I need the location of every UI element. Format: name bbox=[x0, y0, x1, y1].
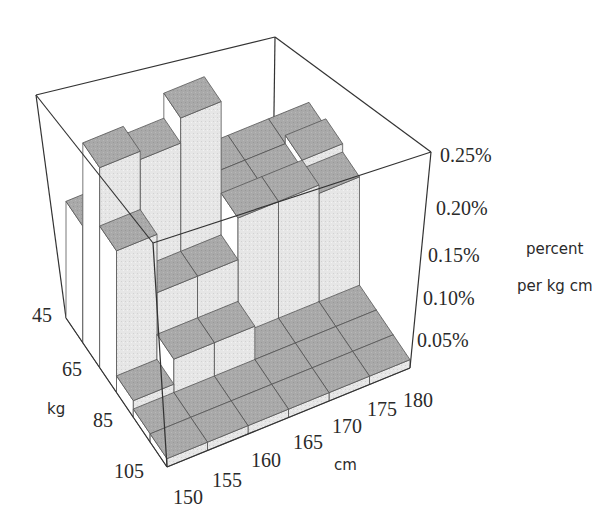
z-tick-010: 0.10% bbox=[423, 287, 475, 309]
x-axis-label: cm bbox=[334, 456, 357, 474]
y-tick-45: 45 bbox=[32, 304, 52, 326]
x-tick-155: 155 bbox=[212, 469, 242, 491]
bars-group bbox=[66, 77, 410, 467]
y-axis-label: kg bbox=[47, 400, 65, 418]
z-tick-015: 0.15% bbox=[428, 244, 480, 266]
z-tick-020: 0.20% bbox=[436, 197, 488, 219]
x-tick-150: 150 bbox=[173, 486, 203, 508]
x-tick-165: 165 bbox=[293, 431, 323, 453]
y-tick-65: 65 bbox=[62, 358, 82, 380]
x-tick-180: 180 bbox=[403, 389, 433, 411]
z-axis-label-line1: percent bbox=[526, 240, 584, 258]
y-tick-105: 105 bbox=[114, 460, 144, 482]
x-tick-160: 160 bbox=[251, 449, 281, 471]
bar-side-face bbox=[100, 226, 117, 392]
x-tick-170: 170 bbox=[332, 415, 362, 437]
z-tick-025: 0.25% bbox=[440, 144, 492, 166]
x-tick-175: 175 bbox=[367, 398, 397, 420]
y-tick-85: 85 bbox=[93, 409, 113, 431]
z-axis-label-line2: per kg cm bbox=[517, 277, 593, 295]
z-tick-005: 0.05% bbox=[417, 329, 469, 351]
histogram-3d-chart: 0.25% 0.20% 0.15% 0.10% 0.05% percent pe… bbox=[0, 0, 607, 529]
bar-side-face bbox=[83, 143, 100, 368]
